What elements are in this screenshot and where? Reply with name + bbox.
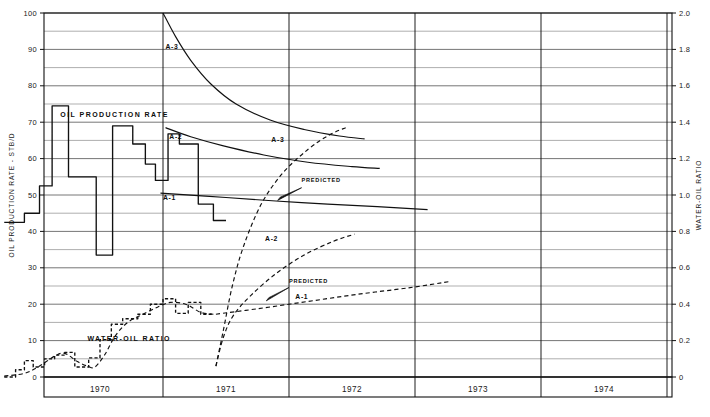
right-axis-tick-label: 0.2 — [679, 336, 690, 345]
left-axis-tick-label: 0 — [33, 373, 37, 382]
right-axis-title: WATER-OIL RATIO — [695, 160, 702, 231]
right-axis-tick-label: 2.0 — [679, 9, 690, 18]
annotation-oil-production-rate-title: OIL PRODUCTION RATE — [60, 111, 169, 118]
x-axis-year-label: 1970 — [90, 385, 110, 394]
oil-production-water-oil-ratio-chart: 0102030405060708090100OIL PRODUCTION RAT… — [0, 0, 710, 417]
annotation-label-a3-oil: A-3 — [166, 43, 179, 50]
right-axis-tick-label: 0.6 — [679, 263, 690, 272]
right-axis-tick-label: 0 — [679, 373, 683, 382]
left-axis-tick-label: 60 — [28, 154, 37, 163]
annotation-label-a2-oil: A-2 — [169, 133, 182, 140]
annotation-water-oil-ratio-title: WATER-OIL RATIO — [87, 335, 171, 342]
x-axis-year-label: 1972 — [342, 385, 362, 394]
chart-background — [0, 0, 710, 417]
annotation-predicted-oil: PREDICTED — [302, 177, 341, 183]
right-axis-tick-label: 1.8 — [679, 45, 690, 54]
annotation-label-a1-oil: A-1 — [163, 194, 176, 201]
x-axis-year-label: 1974 — [594, 385, 614, 394]
grid-lines — [44, 13, 672, 377]
x-axis-year-label: 1973 — [468, 385, 488, 394]
left-axis-tick-label: 10 — [28, 336, 37, 345]
left-axis-tick-label: 90 — [28, 45, 37, 54]
left-axis-tick-label: 80 — [28, 81, 37, 90]
right-axis-tick-label: 1.0 — [679, 191, 690, 200]
left-axis-tick-label: 40 — [28, 227, 37, 236]
annotation-label-a1-wor: A-1 — [295, 293, 308, 300]
right-axis-tick-label: 1.6 — [679, 81, 690, 90]
left-axis-tick-label: 100 — [24, 9, 37, 18]
annotation-label-a2-wor: A-2 — [265, 235, 278, 242]
right-axis-tick-label: 0.8 — [679, 227, 690, 236]
left-axis-title: OIL PRODUCTION RATE - STB/D — [8, 132, 15, 257]
left-axis-tick-label: 30 — [28, 263, 37, 272]
annotation-predicted-wor: PREDICTED — [289, 278, 328, 284]
right-axis-tick-label: 1.4 — [679, 118, 690, 127]
right-axis-tick-label: 1.2 — [679, 154, 690, 163]
left-axis-tick-label: 20 — [28, 300, 37, 309]
left-axis-tick-label: 50 — [28, 191, 37, 200]
left-axis-tick-label: 70 — [28, 118, 37, 127]
chart-figure: 0102030405060708090100OIL PRODUCTION RAT… — [0, 0, 710, 417]
right-axis-tick-label: 0.4 — [679, 300, 690, 309]
annotation-label-a3-wor: A-3 — [271, 136, 284, 143]
x-axis-year-label: 1971 — [216, 385, 236, 394]
